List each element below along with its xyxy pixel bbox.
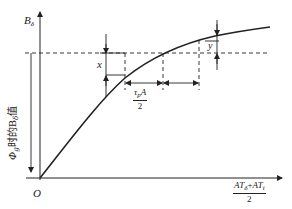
origin-label: O — [33, 188, 41, 199]
x-axis-label-numerator: ATδ+ATt — [233, 181, 266, 194]
y-axis-label-main: B — [24, 14, 31, 26]
y-axis-label: Bδ — [24, 15, 34, 28]
x-axis-label: ATδ+ATt 2 — [233, 181, 266, 204]
span-label-numerator: τpA — [133, 88, 147, 101]
y-axis-label-sub: δ — [31, 20, 34, 28]
span-label-denominator: 2 — [133, 101, 147, 111]
x-axis-label-denominator: 2 — [233, 194, 266, 204]
magnetization-curve — [40, 27, 270, 178]
y-dimension-label: y — [208, 41, 212, 51]
span-label: τpA 2 — [133, 88, 147, 111]
x-dimension-label: x — [97, 59, 102, 70]
vertical-annotation: Φg时的Bδ值 — [4, 106, 20, 160]
